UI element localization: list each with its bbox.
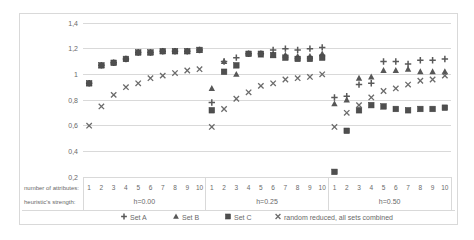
y-axis-tick-label: 0,4 (68, 148, 78, 155)
x-marker-icon (283, 77, 288, 82)
square-marker-icon (172, 48, 178, 54)
x-axis-tick-label: 6 (149, 184, 153, 191)
series-square (86, 47, 447, 175)
x-axis-tick-label: 7 (406, 184, 410, 191)
triangle-marker-icon (331, 100, 337, 106)
square-marker-icon (405, 107, 411, 113)
triangle-marker-icon (405, 66, 411, 72)
x-marker-icon (111, 92, 116, 97)
square-marker-icon (332, 169, 338, 175)
x-axis-tick-label: 8 (419, 184, 423, 191)
square-marker-icon (197, 47, 203, 53)
x-axis-tick-label: 1 (87, 184, 91, 191)
triangle-marker-icon (209, 85, 215, 91)
square-marker-icon (123, 56, 129, 62)
x-axis-tick-label: 5 (259, 184, 263, 191)
gridlines (83, 23, 451, 177)
triangle-marker-icon (393, 67, 399, 73)
square-marker-icon (148, 50, 154, 56)
x-marker-icon (234, 96, 239, 101)
x-axis-tick-label: 6 (394, 184, 398, 191)
x-axis-table (22, 177, 455, 210)
group-label: h=0.25 (256, 198, 278, 205)
x-marker-icon (344, 110, 349, 115)
x-marker-icon (276, 214, 281, 219)
square-marker-icon (393, 106, 399, 112)
x-axis-tick-label: 2 (345, 184, 349, 191)
x-axis-tick-label: 9 (308, 184, 312, 191)
square-marker-icon (246, 51, 252, 57)
x-marker-icon (148, 75, 153, 80)
x-axis-tick-label: 8 (173, 184, 177, 191)
attributes-row-label: number of attributes: (24, 185, 79, 191)
x-marker-icon (136, 81, 141, 86)
x-axis-tick-label: 1 (210, 184, 214, 191)
triangle-marker-icon (173, 213, 179, 218)
square-marker-icon (442, 105, 448, 111)
x-axis-tick-label: 6 (271, 184, 275, 191)
x-axis-tick-label: 9 (431, 184, 435, 191)
x-axis-tick-label: 10 (441, 184, 449, 191)
x-marker-icon (160, 73, 165, 78)
x-marker-icon (185, 68, 190, 73)
x-axis-tick-label: 4 (369, 184, 373, 191)
y-axis-tick-label: 1,2 (68, 45, 78, 52)
x-axis-tick-label: 2 (222, 184, 226, 191)
legend-label: Set B (182, 214, 199, 221)
square-marker-icon (99, 63, 105, 69)
square-marker-icon (283, 55, 289, 61)
y-axis-tick-label: 0,2 (68, 174, 78, 181)
square-marker-icon (234, 63, 240, 69)
legend-label: Set C (234, 214, 252, 221)
square-marker-icon (184, 48, 190, 54)
series-x (86, 67, 447, 130)
square-marker-icon (430, 106, 436, 112)
plus-marker-icon (294, 47, 300, 53)
square-marker-icon (209, 107, 215, 113)
y-axis-tick-label: 1,4 (68, 20, 78, 27)
x-marker-icon (270, 81, 275, 86)
square-marker-icon (86, 81, 92, 87)
x-marker-icon (418, 78, 423, 83)
plus-marker-icon (233, 54, 239, 60)
x-marker-icon (430, 77, 435, 82)
x-marker-icon (123, 84, 128, 89)
x-axis-tick-label: 9 (185, 184, 189, 191)
x-marker-icon (246, 90, 251, 95)
x-axis-tick-label: 7 (284, 184, 288, 191)
group-label: h=0.00 (134, 198, 156, 205)
square-marker-icon (381, 104, 387, 110)
x-axis-tick-label: 4 (124, 184, 128, 191)
scatter-chart-figure: 1,41,210,80,60,40,2number of attributes:… (19, 13, 458, 225)
square-marker-icon (160, 48, 166, 54)
strength-row-label: heuristic's strength: (24, 199, 76, 205)
square-marker-icon (221, 69, 227, 75)
x-marker-icon (197, 67, 202, 72)
x-axis-tick-label: 2 (100, 184, 104, 191)
x-marker-icon (172, 70, 177, 75)
square-marker-icon (368, 102, 374, 108)
plus-marker-icon (121, 214, 127, 220)
y-axis-tick-label: 0,8 (68, 97, 78, 104)
plus-marker-icon (442, 56, 448, 62)
y-axis-tick-label: 0,6 (68, 122, 78, 129)
square-marker-icon (319, 55, 325, 61)
x-marker-icon (209, 124, 214, 129)
plus-marker-icon (368, 80, 374, 86)
x-axis-tick-label: 5 (136, 184, 140, 191)
x-marker-icon (369, 95, 374, 100)
plus-marker-icon (393, 58, 399, 64)
square-marker-icon (344, 128, 350, 134)
square-marker-icon (418, 106, 424, 112)
plus-marker-icon (319, 44, 325, 50)
triangle-marker-icon (429, 68, 435, 74)
x-marker-icon (393, 86, 398, 91)
triangle-marker-icon (380, 67, 386, 73)
x-marker-icon (258, 83, 263, 88)
x-axis-tick-label: 3 (235, 184, 239, 191)
x-marker-icon (356, 102, 361, 107)
group-label: h=0.50 (379, 198, 401, 205)
x-axis-tick-label: 8 (296, 184, 300, 191)
square-marker-icon (135, 50, 141, 56)
x-marker-icon (307, 74, 312, 79)
